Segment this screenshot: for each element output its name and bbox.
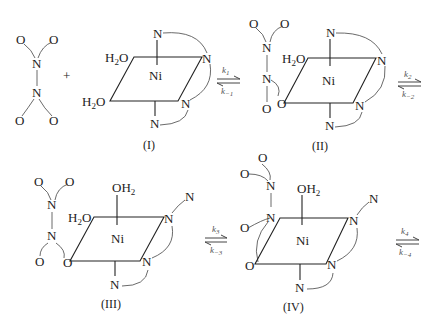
complex-i: N Ni H2O H2O N N N (I) bbox=[82, 26, 212, 152]
equilibrium-arrow-k1: k1 k−1 bbox=[217, 65, 240, 98]
equilibrium-arrow-k4: k4 k−4 bbox=[396, 226, 419, 259]
atom-o: O bbox=[262, 101, 271, 116]
n2o4-molecule: O O N N O O bbox=[15, 32, 58, 128]
complex-label: (I) bbox=[143, 138, 155, 152]
atom-o: O bbox=[65, 174, 74, 189]
rate-constant-forward: k4 bbox=[401, 226, 409, 238]
ligand-h2o: H2O bbox=[105, 50, 128, 67]
atom-o: O bbox=[240, 166, 249, 181]
atom-o: O bbox=[240, 220, 249, 235]
reaction-scheme-diagram: O O N N O O + N Ni H2O H2O N N N (I) bbox=[0, 0, 434, 324]
atom-o: O bbox=[258, 150, 267, 165]
atom-n-dangling: N bbox=[185, 189, 195, 204]
equilibrium-arrow-k2: k2 k−2 bbox=[398, 69, 421, 101]
atom-n: N bbox=[142, 254, 152, 269]
atom-n: N bbox=[164, 211, 174, 226]
complex-iii: O O N N O O OH2 H2O Ni N N N N (III) bbox=[34, 174, 195, 311]
plus-sign: + bbox=[63, 68, 70, 83]
atom-o: O bbox=[35, 254, 44, 269]
atom-n: N bbox=[349, 213, 359, 228]
atom-n: N bbox=[262, 71, 272, 86]
ligand-h2o: H2O bbox=[68, 210, 91, 227]
atom-n: N bbox=[32, 56, 42, 71]
equilibrium-arrow-k3: k3 k−3 bbox=[205, 224, 227, 257]
atom-n: N bbox=[325, 118, 335, 133]
atom-ni: Ni bbox=[149, 68, 162, 83]
atom-n: N bbox=[32, 85, 42, 100]
atom-n: N bbox=[181, 96, 191, 111]
atom-o: O bbox=[280, 16, 289, 31]
atom-n: N bbox=[150, 116, 160, 131]
complex-iv: O O N O N O OH2 Ni N N N N (IV) bbox=[240, 150, 379, 314]
complex-label: (III) bbox=[101, 297, 121, 311]
atom-ni: Ni bbox=[322, 73, 335, 88]
complex-label: (II) bbox=[312, 139, 328, 153]
atom-n: N bbox=[377, 53, 387, 68]
atom-n: N bbox=[47, 228, 57, 243]
atom-n: N bbox=[295, 280, 305, 295]
ligand-oh2: OH2 bbox=[112, 180, 135, 197]
atom-o: O bbox=[49, 32, 58, 47]
atom-n: N bbox=[355, 98, 365, 113]
rate-constant-forward: k1 bbox=[222, 65, 230, 77]
ligand-oh2: OH2 bbox=[297, 181, 320, 198]
atom-n-dangling: N bbox=[369, 191, 379, 206]
atom-ni: Ni bbox=[296, 233, 309, 248]
rate-constant-reverse: k−3 bbox=[210, 245, 223, 257]
atom-o-bound: O bbox=[63, 255, 72, 270]
atom-o: O bbox=[16, 32, 25, 47]
rate-constant-reverse: k−1 bbox=[221, 86, 233, 98]
atom-n: N bbox=[153, 26, 163, 41]
atom-o-bound: O bbox=[277, 96, 286, 111]
rate-constant-reverse: k−2 bbox=[402, 89, 415, 101]
rate-constant-forward: k3 bbox=[212, 224, 220, 236]
atom-o-bound: O bbox=[245, 258, 254, 273]
rate-constant-reverse: k−4 bbox=[399, 247, 412, 259]
atom-ni: Ni bbox=[111, 231, 124, 246]
rate-constant-forward: k2 bbox=[404, 69, 412, 81]
atom-n: N bbox=[326, 25, 336, 40]
complex-label: (IV) bbox=[283, 300, 304, 314]
ligand-h2o: H2O bbox=[82, 94, 105, 111]
ligand-h2o: H2O bbox=[282, 51, 305, 68]
complex-ii: O O N N O O H2O N Ni N N N (II) bbox=[249, 16, 387, 153]
atom-n: N bbox=[262, 40, 272, 55]
atom-n: N bbox=[110, 277, 120, 292]
atom-n: N bbox=[202, 51, 212, 66]
atom-n: N bbox=[327, 257, 337, 272]
atom-n-bound: N bbox=[266, 210, 276, 225]
atom-o: O bbox=[49, 113, 58, 128]
